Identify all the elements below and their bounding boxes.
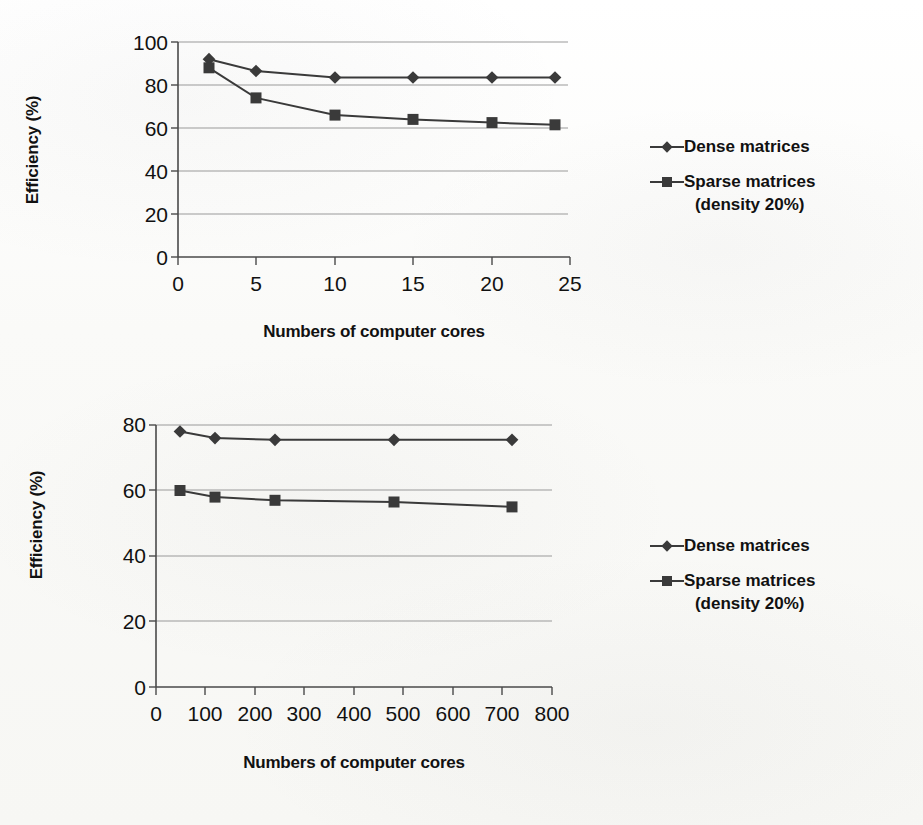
figure-bottom: Efficiency (%) 80 60 40 20 0 — [0, 385, 923, 825]
square-marker-icon — [650, 172, 684, 192]
x-tick-label: 25 — [550, 272, 590, 296]
series-markers-sparse-bottom — [175, 485, 518, 512]
legend-label-dense: Dense matrices — [684, 137, 810, 156]
x-tick-label: 600 — [428, 702, 478, 726]
x-tick-label: 300 — [279, 702, 329, 726]
diamond-marker-icon — [650, 137, 684, 157]
legend-label-sparse: Sparse matrices — [684, 571, 815, 590]
legend-label-dense: Dense matrices — [684, 536, 810, 555]
diamond-marker-icon — [650, 536, 684, 556]
series-line-dense-top — [209, 59, 555, 77]
x-tick-label: 15 — [393, 272, 433, 296]
legend-label-sparse: Sparse matrices — [684, 172, 815, 191]
x-tick-label: 800 — [527, 702, 577, 726]
legend-item-sparse: Sparse matrices (density 20%) — [650, 171, 905, 217]
series-markers-dense-bottom — [174, 425, 519, 446]
x-tick-label: 200 — [230, 702, 280, 726]
series-line-sparse-bottom — [180, 491, 512, 507]
series-markers-dense-top — [203, 53, 562, 84]
x-tick-label: 0 — [158, 272, 198, 296]
x-tick-label: 0 — [136, 702, 176, 726]
x-tick-label: 100 — [180, 702, 230, 726]
legend-top: Dense matrices Sparse matrices (density … — [650, 136, 905, 229]
x-tick-label: 10 — [315, 272, 355, 296]
square-marker-icon — [650, 571, 684, 591]
x-tick-label: 400 — [329, 702, 379, 726]
x-axis-label-top: Numbers of computer cores — [178, 322, 570, 342]
x-tick-label: 700 — [477, 702, 527, 726]
series-line-dense-bottom — [180, 432, 512, 440]
legend-item-dense: Dense matrices — [650, 535, 905, 558]
legend-item-sparse: Sparse matrices (density 20%) — [650, 570, 905, 616]
legend-item-dense: Dense matrices — [650, 136, 905, 159]
x-tick-label: 20 — [472, 272, 512, 296]
legend-bottom: Dense matrices Sparse matrices (density … — [650, 535, 905, 628]
legend-sublabel-sparse: (density 20%) — [684, 194, 815, 217]
x-axis-label-bottom: Numbers of computer cores — [156, 753, 552, 773]
figure-top: Efficiency (%) 100 80 60 40 20 0 — [0, 0, 923, 375]
legend-sublabel-sparse: (density 20%) — [684, 593, 815, 616]
x-tick-label: 5 — [236, 272, 276, 296]
x-tick-label: 500 — [378, 702, 428, 726]
